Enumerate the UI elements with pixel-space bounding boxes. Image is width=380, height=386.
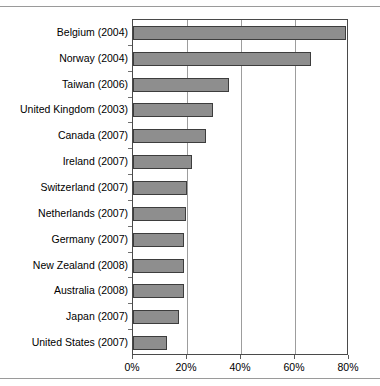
bar [133,52,311,66]
bar-row [133,52,347,66]
category-axis-labels: Belgium (2004)Norway (2004)Taiwan (2006)… [0,19,128,355]
value-tick-label: 20% [156,361,216,373]
bar-row [133,26,347,40]
bar [133,103,213,117]
bar-chart-figure: Belgium (2004)Norway (2004)Taiwan (2006)… [0,0,380,386]
category-label: United Kingdom (2003) [0,103,128,115]
bar-row [133,155,347,169]
value-tick [294,355,295,359]
category-tick [128,122,132,123]
bar-row [133,259,347,273]
category-tick [128,148,132,149]
bar-row [133,181,347,195]
category-label: Belgium (2004) [0,26,128,38]
bar-row [133,103,347,117]
category-label: Ireland (2007) [0,155,128,167]
value-tick-label: 80% [318,361,378,373]
category-label: Japan (2007) [0,310,128,322]
value-tick-label: 60% [264,361,324,373]
value-tick-label: 40% [210,361,270,373]
category-tick [128,174,132,175]
page-rule-top [0,6,380,7]
bar [133,181,187,195]
category-tick [128,45,132,46]
bar [133,207,186,221]
bar-row [133,284,347,298]
value-tick [348,355,349,359]
value-tick [240,355,241,359]
category-tick [128,329,132,330]
value-tick [186,355,187,359]
category-tick [128,252,132,253]
category-label: New Zealand (2008) [0,259,128,271]
plot-area [132,19,348,355]
bar-row [133,207,347,221]
value-tick-label: 0% [102,361,162,373]
page-rule-bottom [0,378,380,379]
bar-row [133,336,347,350]
category-tick [128,303,132,304]
bar-row [133,78,347,92]
bar-row [133,310,347,324]
category-label: Norway (2004) [0,52,128,64]
category-label: Canada (2007) [0,129,128,141]
category-label: Netherlands (2007) [0,207,128,219]
value-tick [132,355,133,359]
bar [133,336,167,350]
category-tick [128,226,132,227]
bar-row [133,129,347,143]
bar [133,284,184,298]
category-label: United States (2007) [0,336,128,348]
category-label: Switzerland (2007) [0,181,128,193]
category-label: Australia (2008) [0,284,128,296]
bar [133,259,184,273]
category-label: Germany (2007) [0,233,128,245]
category-tick [128,277,132,278]
bar-series [133,20,347,354]
bar-row [133,233,347,247]
category-label: Taiwan (2006) [0,78,128,90]
category-tick [128,200,132,201]
category-tick [128,97,132,98]
bar [133,26,346,40]
bar [133,310,179,324]
bar [133,129,206,143]
bar [133,155,192,169]
bar [133,78,229,92]
bar [133,233,184,247]
category-tick [128,71,132,72]
